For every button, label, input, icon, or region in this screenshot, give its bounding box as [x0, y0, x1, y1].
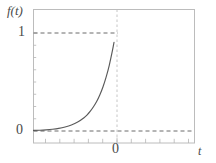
- y-axis-label: f(t): [7, 4, 23, 17]
- x-tick-label-zero: 0: [112, 142, 119, 156]
- y-tick-label-one: 1: [18, 25, 25, 39]
- y-tick-label-zero: 0: [16, 123, 23, 137]
- exponential-decay-figure: f(t) t 1 0 0: [0, 0, 216, 163]
- x-axis-label: t: [198, 145, 201, 157]
- plot-frame: [34, 10, 195, 144]
- plot-canvas: [0, 0, 216, 163]
